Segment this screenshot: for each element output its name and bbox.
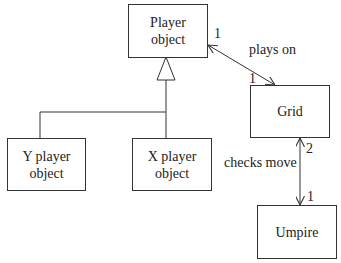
class-name: Umpire: [276, 224, 319, 241]
class-name-line2: object: [155, 165, 189, 182]
class-name-line2: object: [29, 165, 63, 182]
class-name: Grid: [277, 103, 303, 120]
inheritance-triangle: [157, 57, 175, 80]
class-name-line1: Player: [150, 14, 186, 31]
class-name-line1: Y player: [22, 148, 70, 165]
checks-move-label: checks move: [224, 155, 297, 171]
multiplicity-player: 1: [214, 26, 221, 42]
umpire-class: Umpire: [257, 205, 337, 259]
plays-on-label: plays on: [249, 42, 296, 58]
multiplicity-grid-plays: 1: [249, 71, 256, 87]
class-name-line2: object: [151, 31, 185, 48]
grid-class: Grid: [250, 85, 330, 138]
x-player-object-class: X player object: [132, 138, 212, 191]
multiplicity-umpire: 1: [307, 189, 314, 205]
y-player-object-class: Y player object: [7, 138, 86, 191]
player-object-class: Player object: [128, 4, 208, 58]
class-name-line1: X player: [148, 148, 197, 165]
multiplicity-grid-checks: 2: [306, 141, 313, 157]
